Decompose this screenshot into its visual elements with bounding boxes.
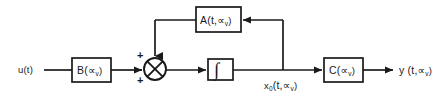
output-signal-label: y (t,∝v) (399, 65, 432, 78)
input-signal-label: u(t) (18, 65, 33, 75)
block-diagram-canvas: u(t) B(∝v) ∫ A(t,∝v) C(∝v) + + x0(t,∝v) … (0, 0, 445, 98)
integrator-glyph: ∫ (214, 60, 219, 79)
integrator-block-rect (208, 59, 233, 80)
output-gain-block-label: C(∝v) (329, 65, 355, 78)
state-signal-label: x0(t,∝v) (264, 80, 297, 93)
sum-plus-top-sign: + (137, 50, 143, 61)
system-matrix-block-label: A(t,∝v) (200, 15, 232, 28)
sum-plus-bottom-sign: + (137, 75, 143, 86)
summing-junction-symbol (144, 58, 166, 80)
input-gain-block-label: B(∝v) (77, 65, 102, 78)
